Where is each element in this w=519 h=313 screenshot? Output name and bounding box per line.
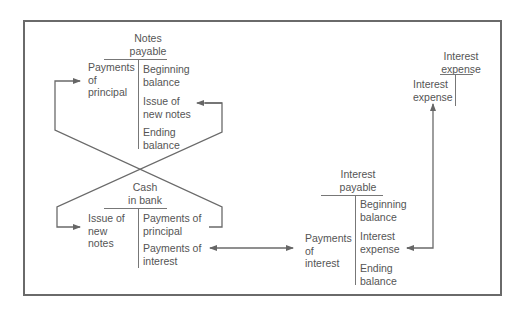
notes-credit-issue-new-notes: Issue of new notes [143,95,191,120]
t-divider [138,208,139,268]
notes-payable-title: Notes payable [118,32,178,57]
interest-payable-credit-interest-expense: Interest expense [360,230,400,255]
interest-payable-debit-payments: Payments of interest [305,232,352,270]
t-top-line [440,74,473,75]
t-top-line [321,195,383,196]
interest-payable-title: Interest payable [323,168,393,193]
notes-debit-payments-principal: Payments of principal [88,61,135,99]
t-divider [455,74,456,106]
t-top-line [104,59,167,60]
notes-credit-ending-balance: Ending balance [143,126,180,151]
cash-in-bank-title: Cash in bank [115,181,175,206]
flow-arrows [0,0,519,313]
notes-credit-beginning-balance: Beginning balance [143,63,190,88]
cash-debit-issue-new-notes: Issue of new notes [88,212,125,250]
t-top-line [104,208,167,209]
interest-expense-debit: Interest expense [413,78,453,103]
cash-credit-payments-principal: Payments of principal [143,212,201,237]
t-divider [355,195,356,285]
interest-payable-credit-ending: Ending balance [360,262,397,287]
cash-credit-payments-interest: Payments of interest [143,242,201,267]
interest-expense-title: Interest expense [436,50,486,75]
t-divider [138,59,139,149]
interest-payable-credit-beginning: Beginning balance [360,198,407,223]
